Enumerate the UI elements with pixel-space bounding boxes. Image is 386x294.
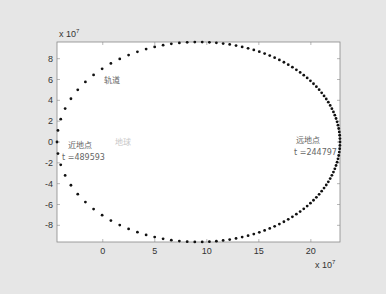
orbit-point <box>56 141 59 144</box>
x-tick-label: 10 <box>202 246 212 256</box>
orbit-point <box>201 241 204 244</box>
orbit-point <box>325 98 328 101</box>
orbit-point <box>278 223 281 226</box>
orbit-point <box>283 220 286 223</box>
x-tick-label: 5 <box>152 246 157 256</box>
x-tick-label: 15 <box>254 246 264 256</box>
orbit-point <box>330 174 333 177</box>
orbit-point <box>335 164 338 167</box>
orbit-point <box>291 66 294 69</box>
orbit-point <box>325 184 328 187</box>
orbit-point <box>339 144 342 147</box>
orbit-point <box>64 107 67 110</box>
orbit-point <box>312 82 315 85</box>
orbit-point <box>291 215 294 218</box>
orbit-point <box>92 208 95 211</box>
x-tick-label: 20 <box>306 246 316 256</box>
orbit-point <box>162 237 165 240</box>
orbit-point <box>201 41 204 44</box>
orbit-point <box>268 54 271 57</box>
apogee-time: t =244797 <box>294 148 337 157</box>
orbit-point <box>241 45 244 48</box>
orbit-point <box>273 225 276 228</box>
orbit-point <box>118 224 121 227</box>
orbit-point <box>193 41 196 44</box>
orbit-point <box>76 193 79 196</box>
orbit-point <box>101 67 104 70</box>
orbit-point <box>337 154 340 157</box>
orbit-point <box>318 193 321 196</box>
orbit-point <box>127 228 130 231</box>
orbit-point <box>247 47 250 50</box>
orbit-point <box>327 180 330 183</box>
orbit-point <box>318 88 321 91</box>
orbit-point <box>336 161 339 164</box>
orbit-point <box>333 167 336 170</box>
x-exponent-label: x 107 <box>315 259 336 270</box>
y-tick-label: -4 <box>45 179 53 189</box>
orbit-point <box>295 213 298 216</box>
orbit-point <box>330 107 333 110</box>
orbit-point <box>241 236 244 239</box>
orbit-point <box>252 49 255 52</box>
orbit-point <box>287 63 290 66</box>
orbit-point <box>278 59 281 62</box>
orbit-point <box>84 81 87 84</box>
orbit-point <box>338 130 341 133</box>
orbit-point <box>329 177 332 180</box>
orbit-point <box>178 42 181 45</box>
orbit-point <box>178 240 181 243</box>
orbit-point <box>127 54 130 57</box>
orbit-point <box>101 214 104 217</box>
orbit-point <box>309 202 312 205</box>
orbit-point <box>153 46 156 49</box>
orbit-point <box>258 50 261 53</box>
y-tick-label: -6 <box>45 200 53 210</box>
orbit-point <box>59 163 62 166</box>
orbit-point <box>118 58 121 61</box>
orbit-point <box>222 239 225 242</box>
y-tick-label: 0 <box>48 137 53 147</box>
orbit-point <box>315 85 318 88</box>
orbit-point <box>208 240 211 243</box>
orbit-point <box>186 41 189 44</box>
orbit-point <box>136 50 139 53</box>
perigee-label: 近地点 <box>68 140 92 150</box>
orbit-point <box>299 71 302 74</box>
orbit-point <box>263 52 266 55</box>
perigee-time: t =489593 <box>62 153 105 162</box>
orbit-point <box>320 91 323 94</box>
orbit-point <box>295 68 298 71</box>
orbit-point <box>235 44 238 47</box>
y-tick-label: 8 <box>48 54 53 64</box>
earth-label: 地球 <box>115 137 131 147</box>
orbit-point <box>170 42 173 45</box>
orbit-point <box>323 94 326 97</box>
orbit-point <box>84 201 87 204</box>
orbit-point <box>145 233 148 236</box>
orbit-point <box>263 229 266 232</box>
orbit-point <box>337 157 340 160</box>
orbit-point <box>186 240 189 243</box>
orbit-point <box>215 240 218 243</box>
orbit-point <box>273 56 276 59</box>
orbit-point <box>329 104 332 107</box>
orbit-point <box>145 48 148 51</box>
orbit-point <box>309 79 312 82</box>
orbit-point <box>323 187 326 190</box>
orbit-point <box>306 205 309 208</box>
orbit-point <box>332 171 335 174</box>
orbit-point <box>136 231 139 234</box>
x-tick-label: 0 <box>100 246 105 256</box>
orbit-point <box>57 152 60 155</box>
orbit-point <box>215 41 218 44</box>
orbit-point <box>235 237 238 240</box>
orbit-figure: x 107 x 107 05101520 86420-2-4-6-8 轨道 近地… <box>0 0 386 294</box>
orbit-point <box>228 238 231 241</box>
orbit-point <box>92 73 95 76</box>
orbit-point <box>153 236 156 239</box>
orbit-point <box>299 210 302 213</box>
apogee-label: 远地点 <box>296 135 320 145</box>
orbit-point <box>287 218 290 221</box>
orbit-point <box>64 174 67 177</box>
